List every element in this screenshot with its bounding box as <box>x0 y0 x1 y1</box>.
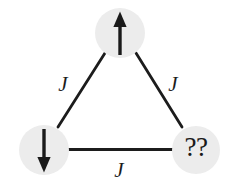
edges-group <box>58 53 182 150</box>
diagram-canvas: ?? J J J <box>0 0 237 189</box>
coupling-label-bottom: J <box>114 158 125 182</box>
coupling-label-top-left: J <box>58 72 69 96</box>
unknown-spin-label: ?? <box>185 132 208 162</box>
spin-triangle-diagram: ?? J J J <box>0 0 237 189</box>
coupling-label-top-right: J <box>168 72 179 96</box>
